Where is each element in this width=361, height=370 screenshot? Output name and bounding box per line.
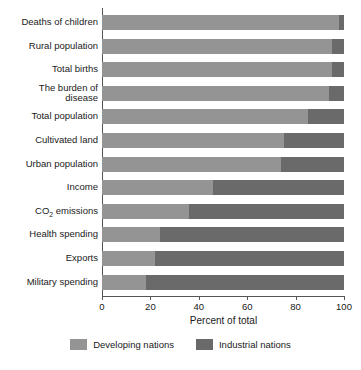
bar-segment-industrial xyxy=(308,109,344,124)
category-label-urban-population: Urban population xyxy=(2,159,98,170)
legend-swatch-developing-nations xyxy=(70,339,87,350)
bar-segment-developing xyxy=(102,204,189,219)
bar-segment-industrial xyxy=(329,86,344,101)
stacked-bar-chart: Deaths of childrenRural populationTotal … xyxy=(0,0,361,370)
category-axis-labels: Deaths of childrenRural populationTotal … xyxy=(0,10,98,295)
legend-label-industrial-nations: Industrial nations xyxy=(219,339,291,350)
bar-segment-industrial xyxy=(155,251,344,266)
category-label-burden-of-disease: The burden ofdisease xyxy=(2,83,98,104)
category-label-exports: Exports xyxy=(2,253,98,264)
category-label-income: Income xyxy=(2,182,98,193)
category-label-co2-emissions: CO2 emissions xyxy=(2,206,98,220)
bar-segment-industrial xyxy=(160,227,344,242)
bar-segment-industrial xyxy=(213,180,344,195)
bar-segment-developing xyxy=(102,157,281,172)
bar-segment-developing xyxy=(102,86,329,101)
category-label-cultivated-land: Cultivated land xyxy=(2,135,98,146)
bar-row xyxy=(102,275,344,290)
x-tick-label: 40 xyxy=(194,301,205,312)
category-label-total-population: Total population xyxy=(2,111,98,122)
x-tick xyxy=(150,296,151,300)
category-label-total-births: Total births xyxy=(2,64,98,75)
category-label-rural-population: Rural population xyxy=(2,41,98,52)
x-axis-line xyxy=(102,296,345,297)
bar-row xyxy=(102,227,344,242)
bar-segment-industrial xyxy=(189,204,344,219)
bar-segment-industrial xyxy=(146,275,344,290)
bar-row xyxy=(102,15,344,30)
bar-row xyxy=(102,157,344,172)
bar-row xyxy=(102,133,344,148)
bar-row xyxy=(102,86,344,101)
x-tick xyxy=(247,296,248,300)
legend-item-developing-nations[interactable]: Developing nations xyxy=(70,339,174,350)
bar-row xyxy=(102,109,344,124)
x-tick-label: 100 xyxy=(336,301,352,312)
bar-segment-developing xyxy=(102,227,160,242)
bar-row xyxy=(102,39,344,54)
x-tick-label: 80 xyxy=(290,301,301,312)
bar-segment-developing xyxy=(102,39,332,54)
legend-swatch-industrial-nations xyxy=(196,339,213,350)
bar-segment-industrial xyxy=(339,15,344,30)
x-tick xyxy=(344,296,345,300)
bar-segment-developing xyxy=(102,251,155,266)
bar-row xyxy=(102,62,344,77)
bar-segment-developing xyxy=(102,109,308,124)
bar-segment-developing xyxy=(102,133,284,148)
legend-item-industrial-nations[interactable]: Industrial nations xyxy=(196,339,291,350)
bar-row xyxy=(102,251,344,266)
chart-legend: Developing nationsIndustrial nations xyxy=(0,339,361,350)
x-tick xyxy=(102,296,103,300)
bar-segment-developing xyxy=(102,180,213,195)
category-label-deaths-of-children: Deaths of children xyxy=(2,17,98,28)
bar-segment-industrial xyxy=(332,62,344,77)
category-label-health-spending: Health spending xyxy=(2,229,98,240)
plot-area xyxy=(102,10,344,295)
x-tick xyxy=(199,296,200,300)
x-tick-label: 0 xyxy=(99,301,104,312)
bar-row xyxy=(102,180,344,195)
bar-row xyxy=(102,204,344,219)
legend-label-developing-nations: Developing nations xyxy=(93,339,174,350)
x-tick-label: 60 xyxy=(242,301,253,312)
x-tick-label: 20 xyxy=(145,301,156,312)
x-tick xyxy=(296,296,297,300)
bar-segment-developing xyxy=(102,275,146,290)
category-label-military-spending: Military spending xyxy=(2,277,98,288)
x-axis-title: Percent of total xyxy=(102,315,345,326)
bar-segment-industrial xyxy=(284,133,345,148)
bar-segment-industrial xyxy=(281,157,344,172)
bar-segment-developing xyxy=(102,15,339,30)
bar-segment-developing xyxy=(102,62,332,77)
bar-segment-industrial xyxy=(332,39,344,54)
